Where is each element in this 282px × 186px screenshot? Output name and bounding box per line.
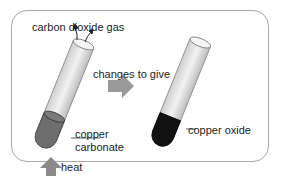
arrow-label: changes to give (93, 68, 170, 80)
reactant-label-line1: copper (75, 128, 109, 140)
reactant-label-line2: carbonate (75, 141, 124, 153)
heat-arrow-icon (40, 157, 62, 176)
heat-label: heat (61, 161, 82, 173)
gas-label: carbon dioxide gas (32, 21, 124, 33)
product-label: copper oxide (188, 124, 251, 136)
